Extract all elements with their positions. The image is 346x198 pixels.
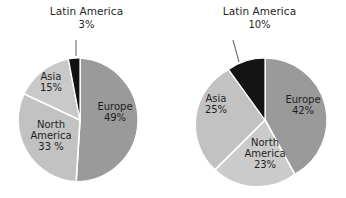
- pie-right-svg: [173, 0, 346, 198]
- slice-europe-left: [76, 58, 138, 182]
- pie-chart-right: Latin America 10% Europe 42% North Ameri…: [173, 0, 346, 198]
- pie-chart-left: Latin America 3% Europe 49% North Americ…: [0, 0, 173, 198]
- chart-canvas: . . . . . . . . . Latin America 3% Europ…: [0, 0, 346, 198]
- leader-line-right: [233, 40, 239, 62]
- pie-left-svg: [0, 0, 173, 198]
